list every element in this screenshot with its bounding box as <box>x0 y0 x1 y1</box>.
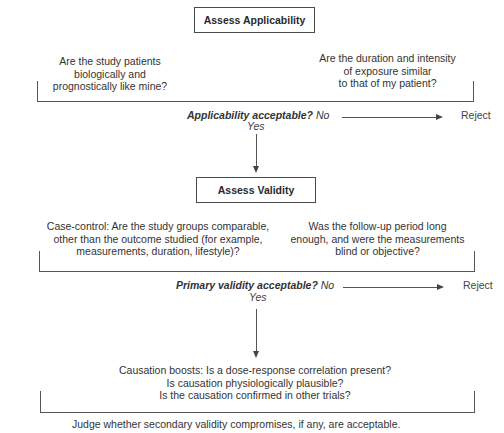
validity-reject-arrow-line <box>343 287 438 288</box>
validity-yes-label: Yes <box>249 291 267 303</box>
assess-applicability-box: Assess Applicability <box>194 7 315 33</box>
applicability-reject-arrow-line <box>342 117 437 118</box>
applicability-yes-arrow-line <box>256 134 257 168</box>
assess-applicability-title: Assess Applicability <box>204 14 306 26</box>
validity-decision-question: Primary validity acceptable? <box>176 279 318 291</box>
validity-yes-arrowhead <box>253 351 259 358</box>
causation-bracket <box>40 391 475 413</box>
applicability-reject-label: Reject <box>461 109 491 121</box>
validity-no-label: No <box>321 279 334 291</box>
assess-validity-box: Assess Validity <box>196 177 316 203</box>
validity-bracket <box>39 251 475 272</box>
validity-yes-arrow-line <box>256 309 257 352</box>
validity-reject-label: Reject <box>463 279 493 291</box>
secondary-validity-conclusion: Judge whether secondary validity comprom… <box>72 418 400 430</box>
applicability-yes-arrowhead <box>253 166 259 173</box>
applicability-yes-label: Yes <box>247 120 265 132</box>
assess-validity-title: Assess Validity <box>218 184 294 196</box>
applicability-no-label: No <box>316 109 329 121</box>
validity-decision: Primary validity acceptable? No <box>176 279 334 291</box>
validity-reject-arrowhead <box>437 284 444 290</box>
applicability-bracket <box>37 81 474 102</box>
applicability-reject-arrowhead <box>436 114 443 120</box>
